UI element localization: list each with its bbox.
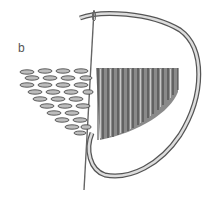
figure-label: b xyxy=(18,41,25,55)
satin-stitch-area xyxy=(96,68,178,140)
stitch-illustration: b xyxy=(0,0,219,201)
stitch-drawing xyxy=(0,0,219,201)
seed-stitch-area xyxy=(20,69,93,135)
